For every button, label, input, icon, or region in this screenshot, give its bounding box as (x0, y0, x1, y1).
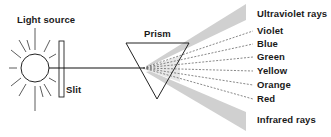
spectrum-label-green: Green (257, 52, 285, 62)
prism-label: Prism (144, 29, 171, 39)
infrared-band (146, 71, 246, 131)
spectrum-label-violet: Violet (257, 26, 283, 36)
slit-plate (59, 41, 64, 97)
spectrum-label-red: Red (257, 94, 275, 104)
spectrum-label-blue: Blue (257, 39, 278, 49)
spectrum-label-ultraviolet: Ultraviolet rays (257, 9, 327, 19)
light-source-label: Light source (17, 15, 75, 25)
spectrum-label-infrared: Infrared rays (257, 115, 316, 125)
sun-icon (9, 28, 56, 111)
spectrum-label-orange: Orange (257, 80, 291, 90)
slit-label: Slit (66, 85, 81, 95)
spectrum-label-yellow: Yellow (257, 66, 287, 76)
